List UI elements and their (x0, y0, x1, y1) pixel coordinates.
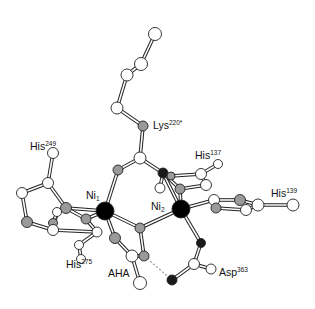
label-ni1: Ni1 (86, 190, 100, 203)
atom (155, 183, 165, 193)
atom (206, 264, 216, 274)
atom (149, 28, 162, 41)
atom (138, 121, 148, 131)
atom (22, 217, 33, 228)
atom (139, 251, 149, 261)
atom (113, 165, 123, 175)
label-his139: His139 (271, 188, 297, 199)
atom (197, 239, 206, 248)
atom (241, 205, 252, 216)
atom (196, 169, 207, 180)
label-his249: His249 (30, 141, 56, 152)
nickel-atom (96, 202, 114, 220)
label-his137: His137 (195, 150, 221, 161)
atom (48, 225, 59, 236)
atom (92, 227, 102, 237)
atom (211, 203, 221, 213)
atom (110, 233, 121, 244)
atom (121, 69, 133, 81)
hydrogen-bond (144, 256, 172, 280)
atom (167, 275, 177, 285)
atom (252, 199, 264, 211)
atom (235, 195, 246, 206)
label-ni2: Ni2 (151, 201, 165, 214)
atom (81, 214, 91, 224)
atom (287, 199, 299, 211)
bond (53, 230, 97, 232)
atom (17, 188, 28, 199)
atom (111, 102, 123, 114)
molecular-structure-figure: Lys220*His249His137His139Ni1Ni2His275AHA… (0, 0, 315, 309)
atom (201, 180, 212, 191)
atom (61, 203, 72, 214)
label-aha: AHA (108, 268, 130, 279)
atom (189, 259, 200, 270)
atom (134, 277, 147, 290)
atom (126, 250, 138, 262)
atom (175, 184, 185, 194)
atom (43, 178, 54, 189)
ball-and-stick-model (0, 0, 315, 309)
atom (167, 172, 175, 180)
label-asp363: Asp363 (219, 267, 248, 278)
atom (135, 223, 145, 233)
nickel-atom (172, 200, 190, 218)
atom (214, 160, 223, 169)
label-his275: His275 (66, 259, 92, 270)
atom (134, 152, 146, 164)
atom (53, 208, 62, 217)
atom (158, 168, 168, 178)
label-lys: Lys220* (153, 120, 182, 131)
atom (75, 241, 84, 250)
atom (135, 58, 148, 71)
